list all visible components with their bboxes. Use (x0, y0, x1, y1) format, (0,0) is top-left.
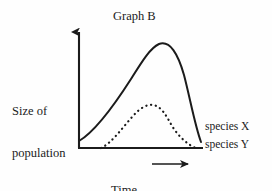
legend-label-species-y: species Y (205, 138, 249, 151)
y-axis-label-line-1: Size of (12, 104, 65, 118)
legend-label-species-x: species X (205, 120, 249, 133)
curve-species-x (79, 43, 201, 142)
graph-title: Graph B (113, 9, 156, 23)
y-axis-label: Size of population (12, 76, 65, 188)
graph-figure: Graph B Size of population Time in days … (0, 0, 272, 191)
x-axis-label-line-1: Time (111, 183, 147, 191)
x-axis-label: Time in days (111, 155, 147, 191)
curve-species-y (101, 105, 196, 148)
y-axis-label-line-2: population (12, 146, 65, 160)
